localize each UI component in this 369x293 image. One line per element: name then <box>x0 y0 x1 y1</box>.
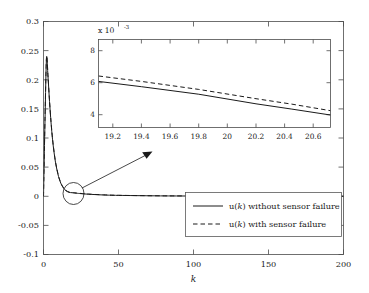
x-tick-label: 100 <box>186 259 202 269</box>
inset-axes-frame <box>99 40 331 128</box>
figure-container: -0.1 -0.05 0 0.05 0.1 0.15 0.2 0.25 0.3 … <box>0 0 369 293</box>
inset-x-tick-label: 20.2 <box>248 132 264 141</box>
y-tick-label: 0.2 <box>26 75 39 85</box>
legend-box <box>186 193 342 237</box>
chart-svg: -0.1 -0.05 0 0.05 0.1 0.15 0.2 0.25 0.3 … <box>0 0 369 293</box>
inset-x-tick-label: 19.2 <box>105 132 121 141</box>
x-tick-label: 150 <box>261 259 277 269</box>
legend-label-without-sensor-failure: u(k) without sensor failure <box>229 201 340 211</box>
inset-multiplier-base: x 10 <box>98 26 115 35</box>
y-tick-label: 0.25 <box>21 46 39 56</box>
y-tick-label: 0.3 <box>26 16 39 26</box>
y-tick-label: -0.1 <box>23 249 39 259</box>
y-tick-label: 0.1 <box>26 133 39 143</box>
y-tick-label: 0.05 <box>21 162 39 172</box>
y-tick-label: 0.15 <box>21 104 39 114</box>
inset-multiplier-exponent: -3 <box>124 24 130 30</box>
inset-y-tick-label: 6 <box>90 78 95 87</box>
x-tick-label: 50 <box>113 259 123 269</box>
x-tick-label: 0 <box>41 259 46 269</box>
inset-x-tick-label: 19.8 <box>190 132 207 141</box>
legend[interactable]: u(k) without sensor failure u(k) with se… <box>186 193 342 237</box>
y-tick-label: 0 <box>34 191 39 201</box>
inset-x-tick-label: 20 <box>223 132 233 141</box>
y-tick-label: -0.05 <box>18 220 39 230</box>
x-axis-label: k <box>191 274 196 284</box>
inset-y-tick-label: 8 <box>90 46 95 55</box>
x-tick-label: 200 <box>336 259 352 269</box>
inset-x-tick-label: 20.6 <box>305 132 322 141</box>
legend-label-with-sensor-failure: u(k) with sensor failure <box>229 219 326 229</box>
inset-y-tick-label: 4 <box>90 110 95 119</box>
inset-x-tick-label: 20.4 <box>276 132 293 141</box>
inset-x-tick-label: 19.6 <box>162 132 179 141</box>
inset-x-tick-label: 19.4 <box>133 132 150 141</box>
